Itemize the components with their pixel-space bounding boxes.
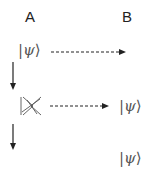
time-arrow-icon: [10, 62, 16, 90]
ket-angle: ⟩: [136, 149, 142, 167]
crossed-out-ket-icon: [21, 97, 41, 115]
initial-state-ket: |ψ⟩: [18, 43, 41, 58]
time-arrow-icon: [10, 124, 16, 150]
party-a-label: A: [25, 9, 35, 24]
ket-angle: ⟩: [136, 97, 142, 115]
ket-psi: ψ: [124, 97, 136, 115]
ket-angle: ⟩: [35, 41, 41, 59]
transfer-arrow-icon: [50, 103, 109, 109]
transfer-arrow-icon: [51, 49, 126, 55]
received-state-ket: |ψ⟩: [119, 99, 142, 114]
final-state-ket: |ψ⟩: [119, 151, 142, 166]
party-b-label: B: [122, 9, 132, 24]
ket-psi: ψ: [124, 149, 136, 167]
ket-psi: ψ: [23, 41, 35, 59]
